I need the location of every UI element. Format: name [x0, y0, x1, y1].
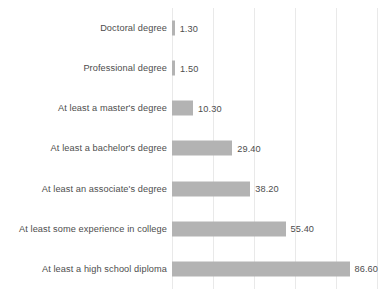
bar-rows-container: Doctoral degree1.30Professional degree1.…	[0, 8, 389, 289]
bar-value-label: 1.50	[180, 63, 198, 73]
bar-and-value: 29.40	[172, 141, 261, 156]
bar-and-value: 1.50	[172, 61, 198, 76]
bar-row: At least a high school diploma86.60	[0, 249, 389, 289]
bar-value-label: 29.40	[237, 143, 261, 153]
bar-value-label: 86.60	[355, 264, 379, 274]
bar-row: At least some experience in college55.40	[0, 209, 389, 249]
bar-and-value: 1.30	[172, 21, 198, 36]
bar-row: At least a master's degree10.30	[0, 88, 389, 128]
category-label: Doctoral degree	[100, 23, 167, 33]
bar	[172, 181, 250, 196]
bar-and-value: 10.30	[172, 101, 222, 116]
bar	[172, 141, 232, 156]
category-label: At least a master's degree	[58, 103, 167, 113]
bar	[172, 221, 286, 236]
category-label: At least some experience in college	[19, 224, 167, 234]
category-label: At least an associate's degree	[42, 184, 167, 194]
bar	[172, 261, 350, 276]
bar-row: At least an associate's degree38.20	[0, 169, 389, 209]
bar-value-label: 10.30	[198, 103, 222, 113]
bar-and-value: 55.40	[172, 221, 314, 236]
category-label: Professional degree	[83, 63, 167, 73]
bar-row: Professional degree1.50	[0, 48, 389, 88]
bar	[172, 21, 175, 36]
horizontal-bar-chart: Doctoral degree1.30Professional degree1.…	[0, 0, 389, 300]
bar-row: At least a bachelor's degree29.40	[0, 128, 389, 168]
category-label: At least a bachelor's degree	[51, 143, 167, 153]
bar	[172, 61, 175, 76]
bar-value-label: 38.20	[255, 184, 279, 194]
bar	[172, 101, 193, 116]
category-label: At least a high school diploma	[42, 264, 167, 274]
bar-value-label: 1.30	[180, 23, 198, 33]
bar-and-value: 86.60	[172, 261, 378, 276]
bar-value-label: 55.40	[291, 224, 315, 234]
bar-and-value: 38.20	[172, 181, 279, 196]
bar-row: Doctoral degree1.30	[0, 8, 389, 48]
